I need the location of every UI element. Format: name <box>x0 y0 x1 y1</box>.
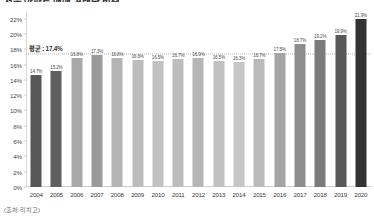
x-axis-tick-label: 2017 <box>293 191 306 198</box>
bar[interactable] <box>274 53 285 187</box>
bar-value-label: 16.7% <box>172 53 184 58</box>
y-axis-tick-label: 20% <box>10 30 22 37</box>
bar-group: 16.5%2010 <box>148 11 168 187</box>
bar[interactable] <box>315 40 326 187</box>
bar-value-label: 16.9% <box>192 52 204 57</box>
bar[interactable] <box>112 58 123 187</box>
x-axis-tick-label: 2005 <box>50 191 63 198</box>
bar-series: 14.7%200415.2%200516.8%200617.3%200716.8… <box>26 11 371 187</box>
bar-group: 21.9%2020 <box>351 11 371 187</box>
bar-group: 16.3%2014 <box>229 11 249 187</box>
bar-group: 15.2%2005 <box>46 11 66 187</box>
x-axis-tick-label: 2010 <box>151 191 164 198</box>
x-axis-tick-label: 2020 <box>354 191 367 198</box>
bar-value-label: 19.9% <box>334 29 346 34</box>
x-axis-tick-label: 2007 <box>91 191 104 198</box>
x-axis-tick-label: 2009 <box>131 191 144 198</box>
bar[interactable] <box>213 61 224 187</box>
bar-group: 16.7%2015 <box>249 11 269 187</box>
x-axis-tick-label: 2008 <box>111 191 124 198</box>
x-axis-tick-label: 2006 <box>70 191 83 198</box>
y-axis-tick-label: 22% <box>10 15 22 22</box>
chart-title: 서울 아파트 매매 거래량 비중 <box>4 0 119 2</box>
x-axis-tick-label: 2018 <box>314 191 327 198</box>
bar[interactable] <box>92 55 103 187</box>
bar[interactable] <box>152 61 163 187</box>
x-axis-tick-label: 2014 <box>233 191 246 198</box>
bar-value-label: 16.6% <box>131 54 143 59</box>
x-axis-tick-label: 2013 <box>212 191 225 198</box>
bar-value-label: 17.3% <box>91 49 103 54</box>
y-axis-tick-label: 8% <box>13 122 22 129</box>
bar-value-label: 16.5% <box>213 55 225 60</box>
bar-group: 17.3%2007 <box>87 11 107 187</box>
bar[interactable] <box>51 71 62 187</box>
y-axis-tick-label: 4% <box>13 153 22 160</box>
bar-value-label: 19.2% <box>314 34 326 39</box>
bar-group: 16.7%2011 <box>168 11 188 187</box>
x-axis-tick-label: 2015 <box>253 191 266 198</box>
y-axis-tick-label: 0% <box>13 184 22 191</box>
bar-group: 18.7%2017 <box>290 11 310 187</box>
x-axis-tick-label: 2019 <box>334 191 347 198</box>
y-axis-tick-label: 16% <box>10 61 22 68</box>
bar-group: 17.5%2016 <box>270 11 290 187</box>
bar-group: 19.2%2018 <box>310 11 330 187</box>
bar[interactable] <box>254 59 265 187</box>
bar-value-label: 16.8% <box>111 52 123 57</box>
y-axis-tick-label: 6% <box>13 138 22 145</box>
y-axis-tick-label: 14% <box>10 76 22 83</box>
y-axis-tick-label: 2% <box>13 168 22 175</box>
bar[interactable] <box>294 44 305 187</box>
bar-group: 16.6%2009 <box>127 11 147 187</box>
bar[interactable] <box>71 58 82 187</box>
x-axis-tick-label: 2004 <box>30 191 43 198</box>
x-axis-tick-label: 2016 <box>273 191 286 198</box>
bar[interactable] <box>355 19 366 187</box>
bar-group: 16.8%2008 <box>107 11 127 187</box>
bar-group: 16.5%2013 <box>209 11 229 187</box>
bar-value-label: 17.5% <box>274 47 286 52</box>
bar[interactable] <box>132 60 143 187</box>
bar[interactable] <box>173 59 184 187</box>
y-axis-tick-label: 12% <box>10 92 22 99</box>
bar-group: 16.9%2012 <box>188 11 208 187</box>
bar-value-label: 16.7% <box>253 53 265 58</box>
bar-value-label: 21.9% <box>355 13 367 18</box>
source-note: (출처: 리치고) <box>4 205 40 214</box>
bar-group: 19.9%2019 <box>330 11 350 187</box>
bar-group: 14.7%2004 <box>26 11 46 187</box>
bar-value-label: 16.8% <box>71 52 83 57</box>
bar[interactable] <box>335 35 346 187</box>
bar-value-label: 15.2% <box>50 65 62 70</box>
bar[interactable] <box>193 58 204 187</box>
x-axis-tick-label: 2012 <box>192 191 205 198</box>
bar-value-label: 16.5% <box>152 55 164 60</box>
bar[interactable] <box>234 62 245 187</box>
bar-value-label: 16.3% <box>233 56 245 61</box>
y-axis-tick-label: 18% <box>10 46 22 53</box>
bar-group: 16.8%2006 <box>67 11 87 187</box>
x-axis-tick-label: 2011 <box>172 191 185 198</box>
bar-value-label: 18.7% <box>294 38 306 43</box>
bar-chart: 서울 아파트 매매 거래량 비중 0%2%4%6%8%10%12%14%16%1… <box>0 0 374 219</box>
y-axis-tick-label: 10% <box>10 107 22 114</box>
bar-value-label: 14.7% <box>30 69 42 74</box>
bar[interactable] <box>31 75 42 187</box>
plot-area: 0%2%4%6%8%10%12%14%16%18%20%22% 평균 : 17.… <box>26 11 371 187</box>
